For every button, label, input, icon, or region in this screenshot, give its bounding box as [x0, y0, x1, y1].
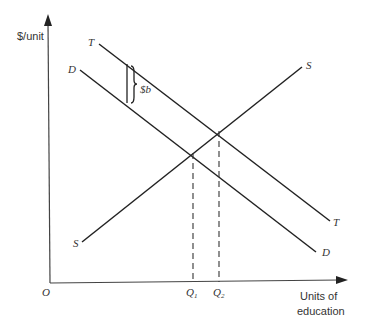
- y-axis-label: $/unit: [17, 30, 44, 42]
- x-axis-label-line2: education: [297, 305, 345, 317]
- y-axis: [48, 22, 50, 283]
- y-axis-arrow-icon: [44, 14, 52, 26]
- origin-label: O: [42, 286, 50, 298]
- curve-d: [80, 70, 316, 252]
- x-axis-arrow-icon: [336, 276, 348, 284]
- x-axis-label-line1: Units of: [300, 290, 338, 302]
- curve-d-label-left: D: [67, 63, 76, 75]
- q2-label: Q2: [213, 286, 225, 300]
- q1-label: Q1: [186, 286, 197, 300]
- x-axis: [50, 280, 340, 283]
- diagram: $/unit O T D S S T D $b Q1 Q2 Units of e…: [0, 0, 365, 324]
- curve-t-label-right: T: [333, 216, 340, 228]
- brace-label: $b: [140, 83, 152, 95]
- curve-s-label-left: S: [73, 237, 79, 249]
- curve-d-label-right: D: [321, 246, 330, 258]
- curve-s-label-right: S: [306, 59, 312, 71]
- curve-t-label-left: T: [88, 36, 95, 48]
